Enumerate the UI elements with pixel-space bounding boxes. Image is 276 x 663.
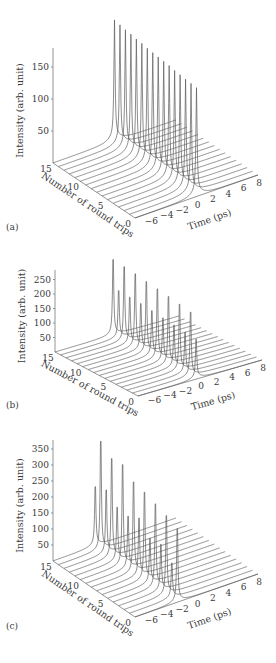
trace-round-10 xyxy=(80,465,203,580)
z-tick-label: 300 xyxy=(32,460,49,470)
time-tick-label: 0 xyxy=(195,599,201,609)
z-axis-title: Intensity (arb. unit) xyxy=(14,458,25,552)
z-tick-label: 150 xyxy=(32,508,49,518)
time-axis-title: Time (ps) xyxy=(186,207,232,232)
round-trip-axis-title: Number of round trips xyxy=(40,170,137,240)
z-tick-label: 100 xyxy=(34,318,51,328)
time-tick-label: −6 xyxy=(148,395,162,405)
time-tick-label: 2 xyxy=(210,593,216,603)
panel-label: (b) xyxy=(6,400,19,410)
round-trip-axis-title: Number of round trips xyxy=(39,358,140,419)
time-tick-label: −2 xyxy=(175,205,188,215)
trace-round-14 xyxy=(58,441,181,564)
chart-panel-c: 50100150200250300350Intensity (arb. unit… xyxy=(6,440,262,638)
z-tick-label: 200 xyxy=(32,492,49,502)
panel-label: (c) xyxy=(6,621,18,631)
time-tick-label: 0 xyxy=(198,381,204,391)
z-axis-title: Intensity (arb. unit) xyxy=(16,269,27,363)
time-tick-label: −2 xyxy=(175,604,188,614)
z-tick-label: 100 xyxy=(32,94,49,104)
trace-round-13 xyxy=(66,267,190,358)
time-tick-label: 0 xyxy=(195,200,201,210)
z-tick-label: 200 xyxy=(34,289,51,299)
time-tick-label: 4 xyxy=(225,189,231,199)
z-tick-label: 250 xyxy=(34,275,51,285)
trace-round-5 xyxy=(108,538,231,598)
time-tick-label: −4 xyxy=(160,210,174,220)
z-tick-label: 150 xyxy=(32,62,49,72)
z-tick-label: 250 xyxy=(32,476,49,486)
time-axis-title: Time (ps) xyxy=(190,389,237,412)
chart-panel-b: 50100150200250Intensity (arb. unit)05101… xyxy=(6,259,266,418)
z-tick-label: 50 xyxy=(38,126,50,136)
z-axis-title: Intensity (arb. unit) xyxy=(14,63,25,157)
z-tick-label: 100 xyxy=(32,524,49,534)
chart-panel-a: 50100150Intensity (arb. unit)051015Numbe… xyxy=(6,20,262,240)
trace-round-15 xyxy=(53,487,176,561)
time-tick-label: 2 xyxy=(210,194,216,204)
trace-round-15 xyxy=(55,259,179,351)
time-tick-label: 8 xyxy=(256,577,262,587)
time-tick-label: −6 xyxy=(145,615,159,625)
time-tick-label: −6 xyxy=(145,216,159,226)
time-tick-label: 4 xyxy=(225,588,231,598)
figure-svg: 50100150Intensity (arb. unit)051015Numbe… xyxy=(0,0,276,663)
time-tick-label: −4 xyxy=(160,609,174,619)
time-tick-label: −2 xyxy=(179,386,192,396)
time-tick-label: 8 xyxy=(260,363,266,373)
time-tick-label: 6 xyxy=(245,368,251,378)
trace-round-11 xyxy=(75,507,198,576)
z-tick-label: 350 xyxy=(32,444,49,454)
figure: 50100150Intensity (arb. unit)051015Numbe… xyxy=(0,0,276,663)
z-tick-label: 50 xyxy=(40,333,52,343)
panel-label: (a) xyxy=(6,222,18,232)
trace-round-12 xyxy=(69,458,192,572)
round-trip-axis-title: Number of round trips xyxy=(40,568,136,639)
time-tick-label: 2 xyxy=(214,377,220,387)
time-tick-label: −4 xyxy=(163,390,177,400)
trace-round-6 xyxy=(102,492,225,594)
z-tick-label: 50 xyxy=(38,540,50,550)
z-tick-label: 150 xyxy=(34,304,51,314)
trace-round-9 xyxy=(86,516,209,583)
time-axis-title: Time (ps) xyxy=(186,606,232,631)
trace-round-11 xyxy=(77,274,201,364)
time-tick-label: 8 xyxy=(256,178,262,188)
time-tick-label: 6 xyxy=(241,582,247,592)
time-tick-label: 4 xyxy=(229,372,235,382)
time-tick-label: 6 xyxy=(241,183,247,193)
trace-round-8 xyxy=(91,482,214,587)
